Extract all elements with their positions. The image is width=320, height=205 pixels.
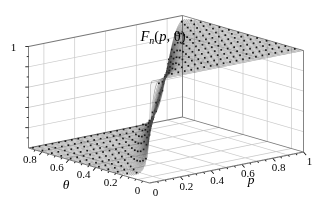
function-symbol: F <box>141 28 150 44</box>
p-tick-label: 1 <box>307 155 313 167</box>
plot-labels-overlay: Fn(p, θ) p θ 00.20.40.60.8100.20.40.60.8… <box>0 0 320 205</box>
plot-function-label: Fn(p, θ) <box>141 28 186 47</box>
p-tick-label: 0.6 <box>241 167 255 179</box>
theta-tick-label: 0.4 <box>77 168 91 180</box>
paren-close: ) <box>181 28 186 44</box>
figure-3d-plot: Fn(p, θ) p θ 00.20.40.60.8100.20.40.60.8… <box>0 0 320 205</box>
theta-tick-label: 0 <box>135 184 141 196</box>
p-tick-label: 0 <box>153 186 159 198</box>
theta-tick-label: 0.2 <box>104 176 118 188</box>
theta-tick-label: 0.8 <box>23 153 37 165</box>
z-tick-label: 1 <box>11 41 17 53</box>
p-tick-label: 0.2 <box>179 180 193 192</box>
theta-tick-label: 0.6 <box>50 161 64 173</box>
function-arg-p: p <box>159 28 166 44</box>
p-tick-label: 0.8 <box>272 161 286 173</box>
p-tick-label: 0.4 <box>210 174 224 186</box>
y-axis-label-theta: θ <box>63 177 70 193</box>
